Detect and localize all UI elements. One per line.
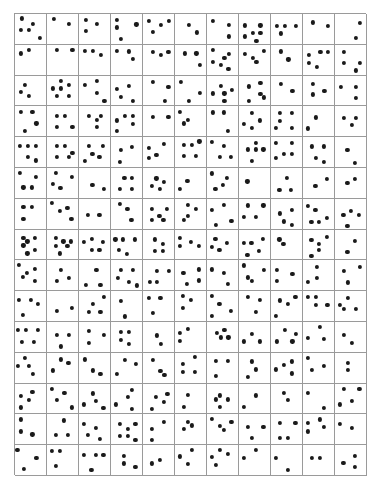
- dot: [83, 83, 87, 87]
- grid-cell: [15, 230, 47, 261]
- dot: [178, 244, 182, 248]
- dot: [286, 302, 290, 306]
- dot: [197, 278, 201, 282]
- dot: [182, 427, 186, 431]
- dot: [277, 237, 281, 241]
- grid-cell: [15, 14, 47, 45]
- dot: [66, 361, 70, 365]
- dot: [342, 116, 346, 120]
- dot: [278, 119, 282, 123]
- grid-cell: [15, 291, 47, 322]
- dot: [254, 38, 258, 42]
- dot: [30, 185, 34, 189]
- dot: [102, 295, 106, 299]
- dot: [162, 373, 166, 377]
- dot: [158, 187, 162, 191]
- dot: [185, 179, 189, 183]
- dot: [25, 239, 29, 243]
- dot: [65, 206, 69, 210]
- grid-cell: [335, 106, 367, 137]
- dot: [275, 339, 279, 343]
- dot: [65, 244, 69, 248]
- dot: [293, 295, 297, 299]
- dot: [33, 247, 37, 251]
- dot: [165, 392, 169, 396]
- grid-cell: [111, 137, 143, 168]
- dot: [118, 160, 122, 164]
- grid-cell: [271, 445, 303, 476]
- dot: [115, 372, 119, 376]
- dot: [226, 397, 230, 401]
- dot: [326, 50, 330, 54]
- dot: [186, 327, 190, 331]
- dot: [147, 280, 151, 284]
- grid-cell: [47, 168, 79, 199]
- grid-cell: [143, 291, 175, 322]
- dot: [165, 207, 169, 211]
- dot: [151, 50, 155, 54]
- dot: [338, 402, 342, 406]
- dot: [67, 83, 71, 87]
- dot: [91, 391, 95, 395]
- grid-cell: [175, 322, 207, 353]
- dot: [122, 461, 126, 465]
- dot: [161, 218, 165, 222]
- dot: [90, 152, 94, 156]
- dot: [325, 235, 329, 239]
- dot: [338, 422, 342, 426]
- dot: [18, 171, 22, 175]
- dot: [51, 368, 55, 372]
- dot: [222, 56, 226, 60]
- dot: [262, 268, 266, 272]
- dot: [117, 248, 121, 252]
- dot: [150, 407, 154, 411]
- dot: [210, 314, 214, 318]
- dot: [214, 374, 218, 378]
- grid-cell: [303, 106, 335, 137]
- grid-cell: [303, 291, 335, 322]
- dot: [101, 406, 105, 410]
- dot: [197, 139, 201, 143]
- dot: [250, 436, 254, 440]
- dot: [153, 237, 157, 241]
- dot: [210, 110, 214, 114]
- dot: [198, 91, 202, 95]
- dot: [21, 313, 25, 317]
- dot: [58, 251, 62, 255]
- dot: [90, 183, 94, 187]
- grid-cell: [111, 260, 143, 291]
- dot: [119, 299, 123, 303]
- dot: [102, 187, 106, 191]
- grid-cell: [271, 353, 303, 384]
- dot: [97, 213, 101, 217]
- dot: [67, 276, 71, 280]
- dot: [61, 239, 65, 243]
- dot: [274, 140, 278, 144]
- grid-cell: [15, 76, 47, 107]
- dot: [31, 372, 35, 376]
- dot: [222, 203, 226, 207]
- dot: [62, 418, 66, 422]
- grid-cell: [47, 353, 79, 384]
- dot: [186, 393, 190, 397]
- dot: [23, 82, 27, 86]
- dot: [254, 310, 258, 314]
- dot: [211, 48, 215, 52]
- dot: [130, 407, 134, 411]
- dot: [70, 125, 74, 129]
- dot: [258, 298, 262, 302]
- grid-cell: [271, 199, 303, 230]
- grid-cell: [239, 291, 271, 322]
- dot: [242, 456, 246, 460]
- dot: [322, 425, 326, 429]
- dot: [242, 263, 246, 267]
- dot: [54, 236, 58, 240]
- dot: [190, 448, 194, 452]
- dot: [309, 220, 313, 224]
- grid-cell: [335, 199, 367, 230]
- grid-cell: [271, 384, 303, 415]
- dot: [50, 387, 54, 391]
- dot: [186, 117, 190, 121]
- dot: [101, 453, 105, 457]
- dot: [50, 201, 54, 205]
